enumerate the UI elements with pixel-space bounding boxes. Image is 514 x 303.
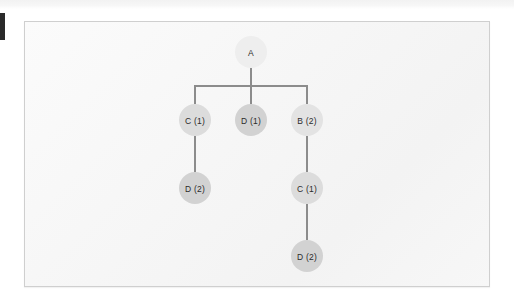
tree-node-label: D (2) <box>297 252 317 262</box>
tree-node-label: C (1) <box>297 184 317 194</box>
tree-node-label: A <box>248 48 254 58</box>
tree-node-label: C (1) <box>185 116 205 126</box>
tree-node[interactable]: B (2) <box>291 104 323 136</box>
tree-node[interactable]: C (1) <box>291 172 323 204</box>
tree-edge <box>251 68 307 104</box>
tree-edges <box>195 68 307 240</box>
tree-node[interactable]: D (2) <box>179 172 211 204</box>
tree-node[interactable]: A <box>235 36 267 68</box>
tree-node-label: B (2) <box>297 116 316 126</box>
tree-node[interactable]: C (1) <box>179 104 211 136</box>
tree-node-label: D (2) <box>185 184 205 194</box>
tree-edge <box>195 68 251 104</box>
tree-node-label: D (1) <box>241 116 261 126</box>
tree-node[interactable]: D (1) <box>235 104 267 136</box>
tree-node[interactable]: D (2) <box>291 240 323 272</box>
tree-diagram: AC (1)D (1)B (2)D (2)C (1)D (2) <box>0 0 514 303</box>
